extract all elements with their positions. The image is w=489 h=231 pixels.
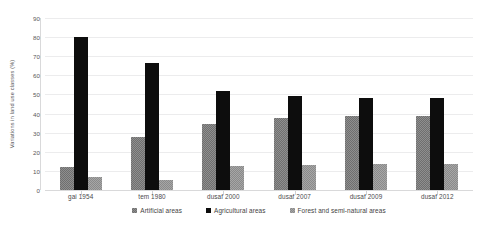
- legend-item-forest[interactable]: Forest and semi-natural areas: [290, 207, 386, 214]
- bar-forest: [159, 180, 173, 191]
- legend-item-agricultural[interactable]: Agricultural areas: [206, 207, 266, 214]
- y-axis-tick-label: 40: [33, 110, 45, 117]
- y-axis-tick-label: 0: [36, 187, 45, 194]
- legend-swatch-forest-icon: [290, 208, 295, 213]
- legend-item-artificial[interactable]: Artificial areas: [132, 207, 182, 214]
- bar-forest: [373, 164, 387, 190]
- y-axis-line: [40, 18, 41, 190]
- x-axis-label-2: dusaf 2000: [188, 193, 259, 200]
- y-axis-tick-label: 60: [33, 72, 45, 79]
- bar-groups: [45, 18, 473, 190]
- plot-area: 0102030405060708090: [45, 18, 473, 190]
- bar-agricultural: [288, 96, 302, 190]
- bar-forest: [88, 177, 102, 190]
- y-axis-tick-label: 80: [33, 34, 45, 41]
- y-axis-tick-label: 70: [33, 53, 45, 60]
- bar-agricultural: [216, 91, 230, 190]
- legend-label: Forest and semi-natural areas: [298, 207, 386, 214]
- bar-artificial: [202, 124, 216, 190]
- x-axis-label-0: gai 1954: [45, 193, 116, 200]
- x-axis-label-5: dusaf 2012: [402, 193, 473, 200]
- bar-group: [259, 18, 330, 190]
- bar-group: [188, 18, 259, 190]
- y-axis-tick-label: 50: [33, 91, 45, 98]
- y-axis-tick-label: 20: [33, 148, 45, 155]
- legend-swatch-artificial-icon: [132, 208, 137, 213]
- bar-artificial: [274, 118, 288, 190]
- bar-group: [402, 18, 473, 190]
- legend-label: Agricultural areas: [214, 207, 266, 214]
- bar-chart: Variations in land use classes (%) 01020…: [0, 0, 489, 231]
- bar-group: [330, 18, 401, 190]
- chart-legend: Artificial areasAgricultural areasForest…: [45, 207, 473, 214]
- x-axis-label-4: dusaf 2009: [330, 193, 401, 200]
- bar-agricultural: [359, 98, 373, 190]
- bar-agricultural: [430, 98, 444, 190]
- x-axis-labels: gai 1954tem 1980dusaf 2000dusaf 2007dusa…: [45, 193, 473, 200]
- bar-forest: [302, 165, 316, 190]
- x-axis-label-1: tem 1980: [116, 193, 187, 200]
- bar-forest: [444, 164, 458, 190]
- bar-artificial: [60, 167, 74, 190]
- bar-agricultural: [145, 63, 159, 190]
- bar-forest: [230, 166, 244, 190]
- y-axis-tick-label: 30: [33, 129, 45, 136]
- y-axis-tick-label: 10: [33, 167, 45, 174]
- bar-agricultural: [74, 37, 88, 190]
- legend-label: Artificial areas: [140, 207, 182, 214]
- bar-group: [45, 18, 116, 190]
- y-axis-tick-label: 90: [33, 15, 45, 22]
- y-axis-title: Variations in land use classes (%): [6, 18, 18, 190]
- bar-group: [116, 18, 187, 190]
- bar-artificial: [345, 116, 359, 190]
- bar-artificial: [416, 116, 430, 190]
- bar-artificial: [131, 137, 145, 191]
- legend-swatch-agricultural-icon: [206, 208, 211, 213]
- x-axis-label-3: dusaf 2007: [259, 193, 330, 200]
